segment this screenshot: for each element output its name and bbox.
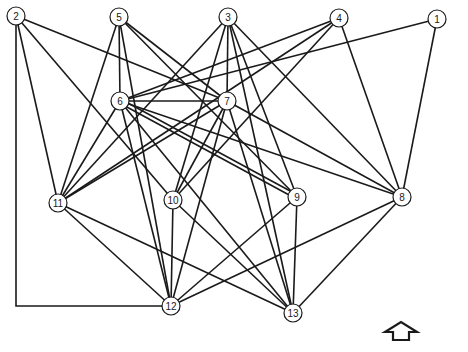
node-label: 7 xyxy=(224,96,230,107)
node-label: 9 xyxy=(294,192,300,203)
graph-diagram: 12345678910111213 xyxy=(0,0,468,352)
edge-3-13 xyxy=(228,17,293,313)
node-label: 2 xyxy=(13,11,19,22)
node-1: 1 xyxy=(428,10,446,28)
node-13: 13 xyxy=(284,304,302,322)
up-arrow-icon xyxy=(385,322,417,340)
node-label: 1 xyxy=(434,14,440,25)
node-label: 4 xyxy=(336,13,342,24)
node-label: 3 xyxy=(225,12,231,23)
edge-7-8 xyxy=(227,101,402,197)
edge-1-8 xyxy=(402,19,437,197)
node-5: 5 xyxy=(110,8,128,26)
node-label: 11 xyxy=(53,198,64,209)
node-7: 7 xyxy=(218,92,236,110)
node-9: 9 xyxy=(288,188,306,206)
edge-11-13 xyxy=(58,203,293,313)
node-2: 2 xyxy=(7,7,25,25)
edge-10-12 xyxy=(171,200,173,306)
edge-4-6 xyxy=(120,18,339,101)
edge-2-11 xyxy=(16,16,58,203)
nodes-layer: 12345678910111213 xyxy=(7,7,446,322)
node-6: 6 xyxy=(111,92,129,110)
edge-2-10 xyxy=(16,16,173,200)
node-label: 10 xyxy=(167,195,179,206)
node-label: 8 xyxy=(399,192,405,203)
up-arrow-shape xyxy=(385,322,417,340)
node-10: 10 xyxy=(164,191,182,209)
node-8: 8 xyxy=(393,188,411,206)
node-3: 3 xyxy=(219,8,237,26)
edge-1-6 xyxy=(120,19,437,101)
node-12: 12 xyxy=(162,297,180,315)
node-4: 4 xyxy=(330,9,348,27)
edge-5-7 xyxy=(119,17,227,101)
node-label: 13 xyxy=(287,308,299,319)
edge-6-11 xyxy=(58,101,120,203)
edge-8-13 xyxy=(293,197,402,313)
edge-9-12 xyxy=(171,197,297,306)
edge-6-8 xyxy=(120,101,402,197)
edge-5-6 xyxy=(119,17,120,101)
edge-11-12 xyxy=(58,203,171,306)
node-label: 12 xyxy=(165,301,177,312)
edge-9-13 xyxy=(293,197,297,313)
node-label: 5 xyxy=(116,12,122,23)
edge-2-12 xyxy=(16,16,171,306)
node-label: 6 xyxy=(117,96,123,107)
node-11: 11 xyxy=(49,194,67,212)
edge-3-7 xyxy=(227,17,228,101)
edge-6-9 xyxy=(121,99,298,195)
edge-4-11 xyxy=(58,18,339,203)
edge-3-11 xyxy=(58,17,228,203)
edge-4-8 xyxy=(339,18,402,197)
edges-layer xyxy=(16,16,437,313)
